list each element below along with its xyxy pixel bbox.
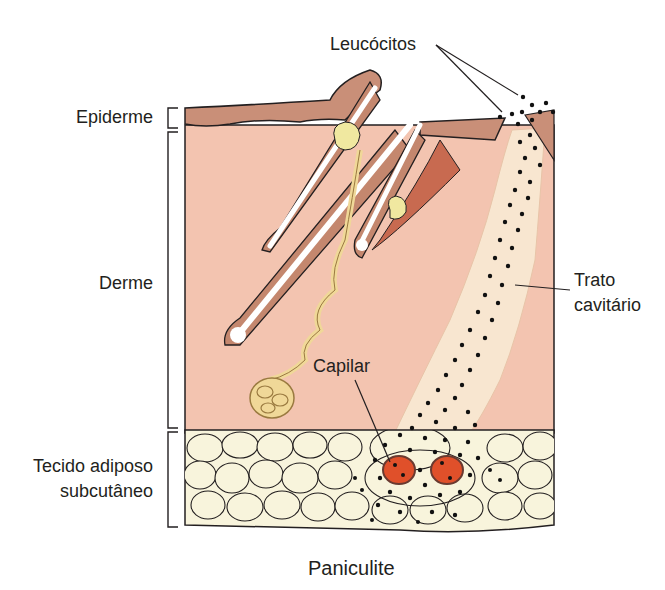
figure-title: Paniculite <box>308 558 395 579</box>
layer-brackets <box>168 108 178 527</box>
label-derme: Derme <box>60 273 153 294</box>
label-trato-line1: Trato <box>574 270 615 291</box>
label-tecido-line2: subcutâneo <box>10 481 153 502</box>
label-tecido-line1: Tecido adiposo <box>10 456 153 477</box>
label-trato-line2: cavitário <box>574 295 641 316</box>
label-capilar: Capilar <box>313 356 370 377</box>
label-epiderme: Epiderme <box>60 107 153 128</box>
label-leucocitos: Leucócitos <box>330 34 416 55</box>
